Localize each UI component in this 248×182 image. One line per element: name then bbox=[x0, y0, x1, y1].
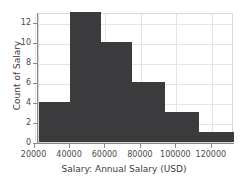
histogram-bar bbox=[199, 132, 234, 142]
x-axis-label: Salary: Annual Salary (USD) bbox=[0, 164, 248, 175]
y-tick-mark bbox=[33, 83, 37, 84]
bars-series bbox=[39, 14, 232, 142]
x-axis-line bbox=[37, 143, 234, 144]
y-tick-mark bbox=[33, 103, 37, 104]
y-axis-line bbox=[37, 13, 38, 144]
x-tick-mark bbox=[140, 144, 141, 148]
x-tick-mark bbox=[104, 144, 105, 148]
x-tick-label: 20000 bbox=[21, 150, 46, 159]
plot-area bbox=[38, 13, 233, 143]
histogram-bar bbox=[165, 112, 199, 142]
y-tick-mark bbox=[33, 123, 37, 124]
y-tick-mark bbox=[33, 23, 37, 24]
x-tick-label: 80000 bbox=[127, 150, 152, 159]
x-tick-mark bbox=[211, 144, 212, 148]
y-tick-mark bbox=[33, 43, 37, 44]
x-tick-label: 60000 bbox=[92, 150, 117, 159]
histogram-bar bbox=[132, 82, 165, 142]
histogram-figure: 024681012 200004000060000800001000001200… bbox=[0, 0, 248, 182]
x-tick-label: 120000 bbox=[196, 150, 227, 159]
y-axis-label: Count of Salary bbox=[12, 11, 23, 141]
x-tick-mark bbox=[34, 144, 35, 148]
histogram-bar bbox=[39, 102, 70, 142]
x-tick-mark bbox=[69, 144, 70, 148]
x-tick-label: 40000 bbox=[56, 150, 81, 159]
x-tick-label: 100000 bbox=[160, 150, 191, 159]
histogram-bar bbox=[70, 12, 101, 142]
y-tick-mark bbox=[33, 63, 37, 64]
x-tick-mark bbox=[175, 144, 176, 148]
histogram-bar bbox=[101, 42, 132, 142]
